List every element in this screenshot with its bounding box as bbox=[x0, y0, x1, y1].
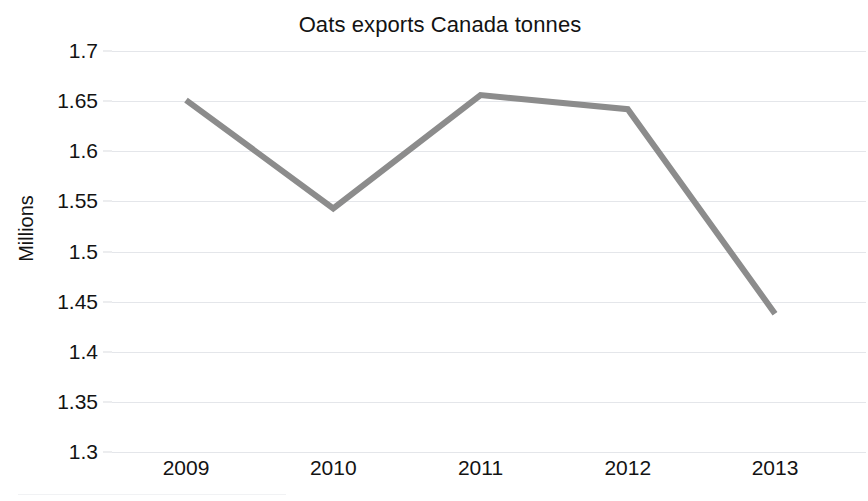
y-axis-tick-label: 1.35 bbox=[57, 390, 98, 414]
y-axis-tick-mark bbox=[103, 201, 112, 202]
series-line-oats-exports bbox=[186, 95, 775, 314]
bottom-edge-artifact bbox=[18, 494, 286, 495]
y-axis-tick-mark bbox=[103, 251, 112, 252]
chart-container: Oats exports Canada tonnes Millions 1.71… bbox=[0, 0, 868, 501]
x-axis-tick-label: 2013 bbox=[752, 456, 799, 480]
gridline bbox=[112, 452, 866, 453]
x-axis-tick-label: 2012 bbox=[604, 456, 651, 480]
x-axis-tick-label: 2011 bbox=[458, 456, 503, 480]
y-axis-tick-mark bbox=[103, 452, 112, 453]
y-axis-tick-label: 1.6 bbox=[69, 139, 98, 163]
y-axis-tick-label: 1.65 bbox=[57, 89, 98, 113]
y-axis-tick-mark bbox=[103, 301, 112, 302]
y-axis-tick-mark bbox=[103, 151, 112, 152]
y-axis-tick-mark bbox=[103, 351, 112, 352]
x-axis-tick-label: 2009 bbox=[163, 456, 210, 480]
chart-title: Oats exports Canada tonnes bbox=[0, 12, 868, 38]
series-line-chart bbox=[112, 51, 866, 452]
y-axis-tick-mark bbox=[103, 401, 112, 402]
y-axis-tick-mark bbox=[103, 51, 112, 52]
y-axis-title-label: Millions bbox=[15, 195, 38, 262]
y-axis-tick-label: 1.5 bbox=[69, 240, 98, 264]
y-axis-tick-label: 1.3 bbox=[69, 440, 98, 464]
y-axis-tick-label: 1.7 bbox=[69, 39, 98, 63]
y-axis-tick-label: 1.55 bbox=[57, 189, 98, 213]
y-axis-tick-label: 1.45 bbox=[57, 290, 98, 314]
y-axis-title: Millions bbox=[0, 0, 40, 501]
x-axis-tick-label: 2010 bbox=[310, 456, 357, 480]
x-axis-tick-labels: 20092010201120122013 bbox=[112, 456, 866, 496]
y-axis-tick-mark bbox=[103, 101, 112, 102]
plot-area bbox=[112, 51, 866, 452]
y-axis-tick-label: 1.4 bbox=[69, 340, 98, 364]
